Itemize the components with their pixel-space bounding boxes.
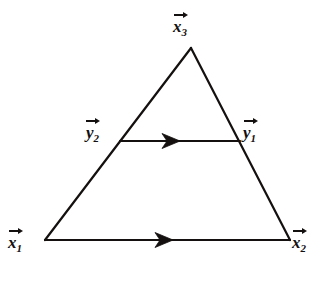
label-subscript: 3 <box>182 26 188 38</box>
label-letter: x <box>8 234 17 251</box>
figure-canvas: x3 y2 y1 x1 <box>0 0 323 284</box>
vertex-label-x2: x2 <box>292 227 306 251</box>
triangle-diagram <box>0 0 323 284</box>
label-letter: y <box>243 124 251 141</box>
label-letter: y <box>86 124 94 141</box>
label-subscript: 2 <box>94 132 100 144</box>
vertex-label-x3: x3 <box>173 11 187 35</box>
label-letter: x <box>173 18 182 35</box>
vertex-label-x1: x1 <box>8 227 22 251</box>
label-subscript: 1 <box>17 242 23 254</box>
label-subscript: 1 <box>251 132 257 144</box>
edge-x3-x2 <box>191 48 290 240</box>
point-label-y1: y1 <box>243 117 256 141</box>
point-label-y2: y2 <box>86 117 99 141</box>
label-subscript: 2 <box>301 242 307 254</box>
label-letter: x <box>292 234 301 251</box>
